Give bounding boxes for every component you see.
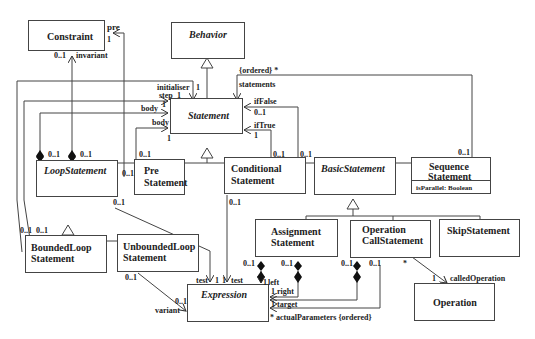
class-name: BasicStatement [321, 162, 385, 175]
class-constraint[interactable]: Constraint [28, 20, 105, 51]
class-name-line2: Statement [144, 176, 187, 189]
mult-cond-if-false: 0..1 [300, 150, 312, 159]
class-skip-statement[interactable]: SkipStatement [439, 219, 520, 257]
class-name: Behavior [189, 28, 227, 41]
mult-invariant: 0..1 [54, 51, 66, 60]
mult-right: 1 [271, 287, 275, 296]
class-name: Expression [201, 288, 247, 301]
class-name-line2: Statement [231, 174, 274, 187]
mult-sequence: 0..1 [458, 148, 470, 157]
mult-if-false: 0..1 [254, 108, 266, 117]
class-name-line2: Statement [31, 252, 74, 265]
role-actual-parameters: * actualParameters {ordered} [270, 313, 372, 322]
mult-body-loop: 1 [162, 100, 166, 109]
mult-unbounded-variant: 0..1 [125, 273, 137, 282]
class-operation[interactable]: Operation [414, 283, 495, 321]
class-name: LoopStatement [44, 164, 106, 177]
mult-bounded-step: 0..1 [36, 226, 48, 235]
mult-opcall-params: 0..1 [369, 259, 381, 268]
class-name-line2: Statement [123, 251, 166, 264]
class-assignment-statement[interactable]: Assignment Statement [255, 219, 338, 257]
role-test-cond: test [231, 276, 243, 285]
role-if-false: ifFalse [254, 97, 277, 106]
mult-loop-test: 0..1 [113, 198, 125, 207]
class-name: Statement [188, 109, 229, 122]
class-conditional-statement[interactable]: Conditional Statement [224, 157, 306, 194]
mult-target: 1 [271, 300, 275, 309]
mult-step: 1 [177, 91, 181, 100]
role-right: right [277, 287, 294, 296]
mult-variant: 0..1 [175, 297, 187, 306]
mult-test-cond: 1 [222, 276, 226, 285]
mult-test-loop: 1 [215, 276, 219, 285]
role-step: step [159, 91, 173, 100]
mult-opcall-called: * [403, 259, 407, 268]
mult-opcall-target: 0..1 [341, 259, 353, 268]
role-called-operation: calledOperation [450, 274, 505, 283]
class-name-line2: CallStatement [362, 234, 423, 247]
mult-loop-invariant: 0..1 [80, 150, 92, 159]
attribute-is-parallel: isParallel: Boolean [412, 180, 490, 195]
class-operation-call-statement[interactable]: Operation CallStatement [350, 220, 431, 258]
mult-pre-body: 0..1 [139, 150, 151, 159]
class-unbounded-loop-statement[interactable]: UnboundedLoop Statement [117, 234, 199, 272]
role-pre: pre [107, 23, 120, 32]
role-if-true: ifTrue [254, 121, 275, 130]
mult-assign-right: 0..1 [281, 259, 293, 268]
class-bounded-loop-statement[interactable]: BoundedLoop Statement [25, 235, 107, 273]
mult-cond-test: 0..1 [229, 198, 241, 207]
class-name-line2: Statement [271, 236, 314, 249]
class-name: Constraint [47, 30, 93, 43]
mult-cond-if-true: 0..1 [273, 150, 285, 159]
label-ordered-many: {ordered} * [239, 66, 278, 75]
mult-assign-left: 0..1 [243, 259, 255, 268]
class-loop-statement[interactable]: LoopStatement [36, 160, 118, 197]
mult-bounded-initialiser: 0..1 [20, 226, 32, 235]
mult-pre: 1 [107, 35, 111, 44]
role-body-pre: body [152, 118, 169, 127]
role-invariant: invariant [76, 51, 108, 60]
mult-pre-constraint: 0..1 [122, 169, 134, 178]
role-statements: statements [239, 80, 275, 89]
class-expression[interactable]: Expression [187, 284, 269, 322]
class-statement[interactable]: Statement [170, 98, 243, 134]
mult-loop-body: 0..1 [48, 150, 60, 159]
mult-initialiser: 1 [196, 83, 200, 92]
class-name: SkipStatement [447, 224, 510, 237]
mult-left: 1 [263, 278, 267, 287]
class-behavior[interactable]: Behavior [171, 22, 245, 59]
class-name: Operation [433, 296, 477, 309]
role-left: left [268, 278, 279, 287]
class-pre-statement[interactable]: Pre Statement [134, 159, 185, 195]
mult-if-true: 1 [254, 131, 258, 140]
mult-called-operation: 1 [432, 274, 436, 283]
role-body-loop: body [141, 104, 158, 113]
role-variant: variant [155, 306, 180, 315]
role-test-loop: test [196, 276, 208, 285]
mult-body-pre: 1 [167, 134, 171, 143]
class-sequence-statement[interactable]: Sequence Statement isParallel: Boolean [411, 157, 491, 194]
role-target: target [277, 300, 297, 309]
class-basic-statement[interactable]: BasicStatement [314, 157, 396, 195]
